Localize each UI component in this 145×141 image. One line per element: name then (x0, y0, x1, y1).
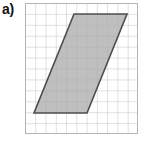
grid-area (25, 3, 138, 134)
square-grid (25, 3, 138, 134)
part-label: a) (2, 1, 14, 17)
figure-panel: a) (0, 0, 145, 141)
